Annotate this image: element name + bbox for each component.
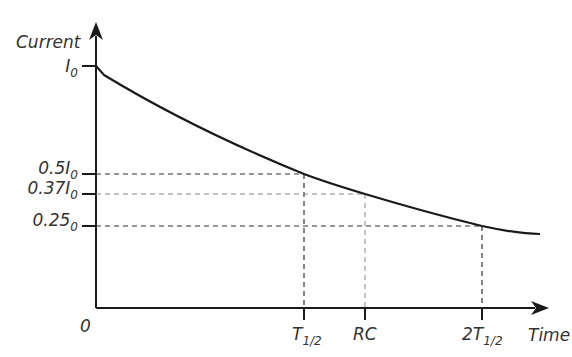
label-t-half: T1/2: [292, 326, 322, 347]
label-quarter: 0.250: [33, 212, 79, 233]
decay-diagram: [0, 0, 572, 357]
guide-quarter: [96, 226, 482, 308]
origin-label: 0: [80, 318, 91, 335]
label-e-sub: 0: [70, 188, 78, 202]
label-t-half-sub: 1/2: [302, 334, 321, 348]
x-axis-label: Time: [528, 327, 570, 344]
label-i0-sub: 0: [70, 66, 78, 80]
label-2t-half-sub: 1/2: [483, 334, 502, 348]
label-e: 0.37I0: [27, 180, 78, 201]
label-2t-half-main: 2T: [462, 324, 483, 344]
label-i0: I0: [65, 58, 78, 79]
label-t-half-main: T: [292, 324, 302, 344]
label-quarter-main: 0.25: [33, 210, 71, 230]
label-quarter-sub: 0: [70, 220, 78, 234]
label-half-main: 0.5I: [38, 158, 70, 178]
decay-curve: [96, 66, 540, 234]
guide-e: [96, 194, 365, 308]
y-axis-label: Current: [16, 34, 81, 51]
label-rc: RC: [353, 326, 377, 343]
label-e-main: 0.37I: [27, 178, 70, 198]
label-2t-half: 2T1/2: [462, 326, 503, 347]
